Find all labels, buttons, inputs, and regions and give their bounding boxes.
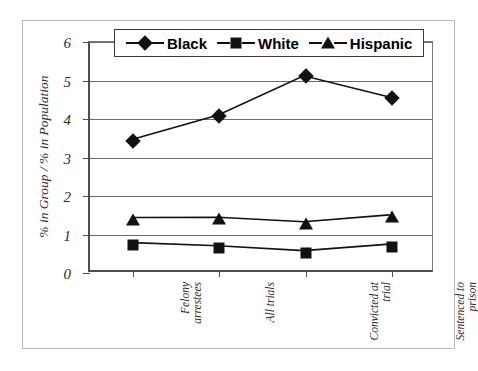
plot-area: 0123456 FelonyarresteesAll trialsConvict… — [88, 41, 433, 272]
y-axis-title: % in Group / % in Population — [36, 41, 54, 272]
data-point-black-2 — [298, 68, 314, 84]
series-line-white — [133, 243, 390, 251]
x-axis-tick-label: Convicted attrial — [368, 282, 392, 340]
x-axis-tick-label: All trials — [264, 282, 276, 323]
gridline — [90, 158, 432, 159]
legend-label: Hispanic — [350, 35, 413, 52]
x-axis-tick — [219, 270, 220, 277]
diamond-marker-icon — [139, 37, 151, 49]
x-axis-tick-label-line: Felony — [179, 282, 191, 324]
data-series-layer — [90, 42, 432, 270]
chart-legend[interactable]: BlackWhiteHispanic — [114, 29, 424, 57]
y-axis-tick-label: 4 — [64, 112, 72, 129]
data-point-white-0 — [128, 240, 139, 251]
x-axis-tick-label: Sentenced toprison — [454, 282, 478, 340]
legend-item-white[interactable]: White — [217, 35, 299, 52]
data-point-black-3 — [384, 90, 400, 106]
x-axis-tick-label-line: All trials — [264, 282, 276, 323]
data-point-white-2 — [300, 248, 311, 259]
x-axis-tick-label: Felonyarrestees — [179, 282, 203, 324]
data-point-hispanic-1 — [212, 213, 226, 225]
legend-line — [242, 42, 255, 44]
x-axis-tick — [306, 270, 307, 277]
series-line-hispanic — [133, 215, 390, 222]
legend-item-black[interactable]: Black — [126, 35, 207, 52]
data-point-white-3 — [386, 241, 397, 252]
x-axis-tick — [392, 270, 393, 277]
y-axis-tick-label: 3 — [64, 150, 72, 167]
x-axis-tick-label-line: trial — [380, 282, 392, 340]
legend-item-hispanic[interactable]: Hispanic — [309, 35, 413, 52]
y-axis-tick-label: 0 — [64, 266, 72, 283]
data-point-black-0 — [125, 133, 141, 149]
x-axis-tick-label-line: arrestees — [191, 282, 203, 324]
y-axis-tick-label: 2 — [64, 189, 72, 206]
x-axis-tick-label-line: prison — [466, 282, 478, 340]
triangle-marker-icon-glyph — [321, 36, 335, 48]
gridline — [90, 196, 432, 197]
y-axis-tick: 2 — [83, 196, 90, 197]
square-marker-icon-glyph — [231, 38, 242, 49]
series-line-black — [133, 76, 390, 139]
y-axis-tick: 6 — [83, 42, 90, 43]
x-axis-tick-label-line: Convicted at — [368, 282, 380, 340]
legend-label: White — [258, 35, 299, 52]
y-axis-tick-label: 5 — [64, 73, 72, 90]
x-axis-tick-label-line: Sentenced to — [454, 282, 466, 340]
y-axis-tick: 4 — [83, 119, 90, 120]
data-point-hispanic-3 — [385, 211, 399, 223]
legend-line — [217, 42, 230, 44]
y-axis-tick: 0 — [83, 273, 90, 274]
legend-label: Black — [167, 35, 207, 52]
legend-line — [334, 42, 347, 44]
x-axis-tick — [133, 270, 134, 277]
gridline — [90, 119, 432, 120]
data-point-black-1 — [212, 108, 228, 124]
triangle-marker-icon — [322, 37, 334, 49]
gridline — [90, 81, 432, 82]
data-point-white-1 — [214, 243, 225, 254]
diamond-marker-icon-glyph — [137, 35, 153, 51]
y-axis-tick: 1 — [83, 235, 90, 236]
y-axis-tick: 5 — [83, 81, 90, 82]
square-marker-icon — [230, 37, 242, 49]
y-axis-tick-label: 6 — [64, 35, 72, 52]
gridline — [90, 235, 432, 236]
y-axis-tick-label: 1 — [64, 227, 72, 244]
data-point-hispanic-0 — [126, 213, 140, 225]
data-point-hispanic-2 — [299, 217, 313, 229]
y-axis-tick: 3 — [83, 158, 90, 159]
